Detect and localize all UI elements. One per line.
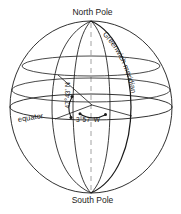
globe-coordinate-diagram: Greenwich meridian North Pole South Pole… xyxy=(0,0,181,214)
meridian-arc-left xyxy=(52,21,91,193)
south-pole-label: South Pole xyxy=(50,196,135,205)
meridian-arc-center-left xyxy=(73,21,91,193)
north-pole-label: North Pole xyxy=(50,8,135,17)
globe-wireframe: Greenwich meridian xyxy=(0,0,181,214)
angle-dot-lat-bottom xyxy=(70,116,73,119)
longitude-value-label: 3°57' W xyxy=(76,117,100,124)
angle-dot-lon-left xyxy=(79,112,82,115)
latitude-value-label: 47°43' N xyxy=(65,82,72,108)
radius-line-equator-right xyxy=(92,105,132,116)
angle-dot-lon-right xyxy=(104,113,107,116)
